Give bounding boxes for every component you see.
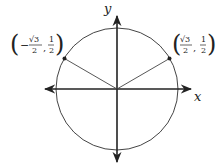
left-den-x: 2 [32, 46, 37, 55]
left-num-y: 1 [49, 35, 54, 44]
unit-circle-diagram: y x ( − √3 2 , 1 2 ) ( √3 2 , 1 2 ) [0, 0, 218, 167]
right-den-x: 2 [183, 46, 188, 55]
svg-text:): ) [55, 30, 64, 58]
right-num-y: 1 [201, 35, 206, 44]
radius-line-right [117, 59, 170, 90]
coord-label-left: ( − √3 2 , 1 2 ) [10, 30, 64, 58]
radius-line-left [65, 59, 118, 90]
svg-text:): ) [207, 30, 216, 58]
left-num-x: √3 [29, 35, 39, 44]
svg-text:,: , [193, 42, 196, 53]
x-axis-label: x [194, 89, 202, 104]
y-axis-label: y [103, 1, 112, 16]
right-den-y: 2 [201, 46, 206, 55]
right-num-x: √3 [180, 35, 190, 44]
left-den-y: 2 [49, 46, 54, 55]
point-right-marker [168, 57, 172, 61]
coord-label-right: ( √3 2 , 1 2 ) [172, 30, 216, 58]
svg-text:,: , [43, 42, 46, 53]
svg-text:(: ( [10, 30, 19, 58]
left-sign: − [20, 39, 29, 52]
